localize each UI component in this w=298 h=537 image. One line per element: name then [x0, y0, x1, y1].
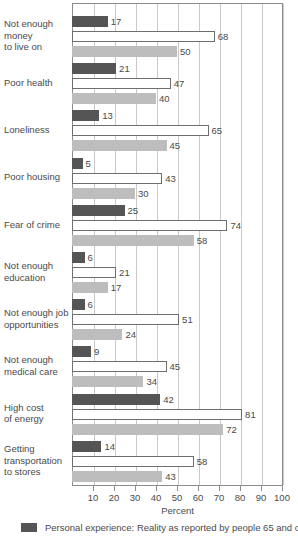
bar[interactable]	[72, 471, 162, 482]
legend-entry-label: Personal experience: Reality as reported…	[45, 521, 298, 534]
x-axis-ticks: 102030405060708090100	[72, 486, 283, 492]
category-label-line: to stores	[4, 466, 72, 478]
bar-value-label: 9	[94, 344, 99, 359]
bar-value-label: 43	[165, 171, 176, 186]
bar[interactable]	[72, 188, 135, 199]
bar-value-label: 51	[182, 312, 193, 327]
chart-legend: Personal experience: Reality as reported…	[21, 521, 298, 535]
category-label-line: Not enough	[4, 18, 72, 30]
bar[interactable]	[72, 78, 171, 89]
x-tick-label: 60	[193, 491, 204, 504]
bar-value-label: 74	[230, 218, 241, 233]
bar-value-label: 17	[111, 14, 122, 29]
bar[interactable]	[72, 125, 209, 136]
bar-value-label: 17	[111, 280, 122, 295]
bar-value-label: 47	[174, 76, 185, 91]
bar[interactable]	[72, 394, 160, 405]
bar-value-label: 72	[226, 422, 237, 437]
bar[interactable]	[72, 140, 167, 151]
bar[interactable]	[72, 376, 143, 387]
bar-value-label: 6	[88, 250, 93, 265]
bar[interactable]	[72, 93, 156, 104]
legend-swatch-icon	[21, 523, 37, 532]
bar-group: 428172	[72, 394, 283, 435]
bar-value-label: 58	[197, 233, 208, 248]
bar[interactable]	[72, 329, 122, 340]
bar-value-label: 34	[146, 374, 157, 389]
bar[interactable]	[72, 46, 177, 57]
bar-value-label: 45	[170, 138, 181, 153]
category-label-line: money	[4, 30, 72, 42]
bar[interactable]	[72, 31, 215, 42]
bar[interactable]	[72, 110, 99, 121]
category-label-line: transportation	[4, 455, 72, 467]
category-label: Poor housing	[4, 171, 72, 183]
bar[interactable]	[72, 63, 116, 74]
bar-value-label: 25	[128, 203, 139, 218]
bar-value-label: 5	[86, 156, 91, 171]
bar-value-label: 58	[197, 454, 208, 469]
category-label: Fear of crime	[4, 219, 72, 231]
x-tick-label: 20	[109, 491, 120, 504]
category-label: Not enougheducation	[4, 260, 72, 283]
bar-value-label: 50	[180, 44, 191, 59]
category-label-line: to live on	[4, 41, 72, 53]
x-tick-label: 10	[88, 491, 99, 504]
category-label-line: Not enough	[4, 354, 72, 366]
bar-value-label: 40	[159, 91, 170, 106]
bar-value-label: 81	[245, 407, 256, 422]
bar[interactable]	[72, 282, 108, 293]
bar[interactable]	[72, 220, 227, 231]
horizontal-bar-chart: Not enoughmoneyto live onPoor healthLone…	[0, 0, 298, 537]
bar-value-label: 21	[119, 265, 130, 280]
bar[interactable]	[72, 252, 85, 263]
x-tick-label: 50	[172, 491, 183, 504]
bar-value-label: 45	[170, 359, 181, 374]
bar[interactable]	[72, 173, 162, 184]
bar[interactable]	[72, 314, 179, 325]
bar-value-label: 42	[163, 392, 174, 407]
x-tick-label: 40	[151, 491, 162, 504]
category-label-line: Getting	[4, 443, 72, 455]
category-label: Not enoughmoneyto live on	[4, 18, 72, 53]
bar-group: 62117	[72, 252, 283, 293]
bar-value-label: 30	[138, 186, 149, 201]
bar-groups: 1768502147401365455433025745862117651249…	[72, 3, 283, 486]
category-label-line: Fear of crime	[4, 219, 72, 231]
bar-value-label: 65	[212, 123, 223, 138]
bar[interactable]	[72, 299, 85, 310]
category-label-line: medical care	[4, 366, 72, 378]
bar-group: 257458	[72, 205, 283, 246]
bar-group: 94534	[72, 346, 283, 387]
bar-value-label: 13	[102, 108, 113, 123]
bar-group: 176850	[72, 16, 283, 57]
category-label-line: Poor housing	[4, 171, 72, 183]
bar[interactable]	[72, 441, 101, 452]
category-label-line: education	[4, 272, 72, 284]
bar[interactable]	[72, 205, 125, 216]
bar[interactable]	[72, 409, 242, 420]
category-label-line: Not enough job	[4, 307, 72, 319]
x-tick-label: 80	[235, 491, 246, 504]
bar-value-label: 21	[119, 61, 130, 76]
bar[interactable]	[72, 267, 116, 278]
bar-group: 145843	[72, 441, 283, 482]
category-label-line: Not enough	[4, 260, 72, 272]
category-label: High costof energy	[4, 402, 72, 425]
bar[interactable]	[72, 361, 167, 372]
bar[interactable]	[72, 456, 194, 467]
bar[interactable]	[72, 424, 223, 435]
bar[interactable]	[72, 346, 91, 357]
category-label-line: of energy	[4, 413, 72, 425]
category-label: Not enoughmedical care	[4, 354, 72, 377]
x-tick-label: 90	[256, 491, 267, 504]
bar[interactable]	[72, 235, 194, 246]
category-label: Poor health	[4, 77, 72, 89]
gridline	[283, 4, 284, 485]
bar[interactable]	[72, 158, 83, 169]
x-axis-title: Percent	[72, 505, 283, 516]
bar[interactable]	[72, 16, 108, 27]
category-label: Loneliness	[4, 124, 72, 136]
bar-value-label: 14	[104, 439, 115, 454]
bar-group: 65124	[72, 299, 283, 340]
